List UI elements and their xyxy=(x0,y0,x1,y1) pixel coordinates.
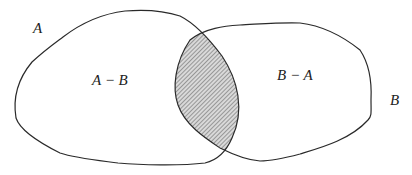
venn-diagram xyxy=(0,0,412,175)
a-minus-b-label: A − B xyxy=(92,73,128,88)
intersection-region xyxy=(175,23,371,161)
set-a-label: A xyxy=(33,21,42,36)
set-b-label: B xyxy=(390,93,399,108)
b-minus-a-label: B − A xyxy=(277,68,313,83)
